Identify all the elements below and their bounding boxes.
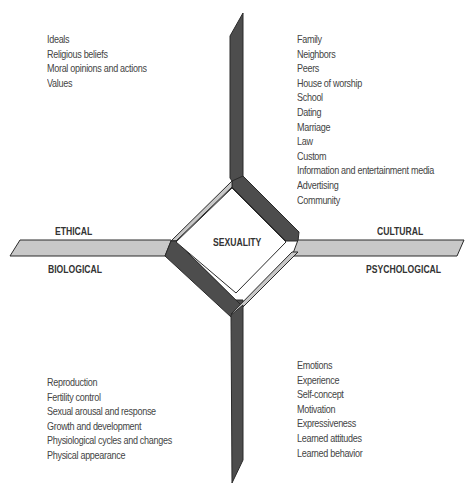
cultural-item: Family xyxy=(297,32,434,47)
dimension-label-cultural: CULTURAL xyxy=(377,225,423,237)
psychological-item: Expressiveness xyxy=(297,416,362,431)
bottom-vertical-bar xyxy=(231,305,243,483)
ethical-item: Ideals xyxy=(47,32,147,47)
psychological-item: Experience xyxy=(297,373,362,388)
cultural-item: Information and entertainment media xyxy=(297,163,434,178)
cultural-item: Advertising xyxy=(297,178,434,193)
dimension-label-ethical: ETHICAL xyxy=(55,225,92,237)
psychological-item: Emotions xyxy=(297,358,362,373)
ethical-item: Religious beliefs xyxy=(47,47,147,62)
cultural-item: Community xyxy=(297,193,434,208)
cultural-item: School xyxy=(297,90,434,105)
biological-item: Physiological cycles and changes xyxy=(47,433,172,448)
cultural-item: Dating xyxy=(297,105,434,120)
cultural-item: Neighbors xyxy=(297,47,434,62)
right-horizontal-bar xyxy=(292,240,464,256)
biological-items-list: Reproduction Fertility control Sexual ar… xyxy=(47,375,172,463)
cultural-item: House of worship xyxy=(297,76,434,91)
ethical-item: Values xyxy=(47,76,147,91)
psychological-item: Self-concept xyxy=(297,387,362,402)
psychological-item: Motivation xyxy=(297,402,362,417)
left-horizontal-bar xyxy=(10,240,171,256)
psychological-items-list: Emotions Experience Self-concept Motivat… xyxy=(297,358,362,460)
ethical-items-list: Ideals Religious beliefs Moral opinions … xyxy=(47,32,147,90)
biological-item: Fertility control xyxy=(47,390,172,405)
ethical-item: Moral opinions and actions xyxy=(47,61,147,76)
biological-item: Physical appearance xyxy=(47,448,172,463)
biological-item: Growth and development xyxy=(47,419,172,434)
biological-item: Sexual arousal and response xyxy=(47,404,172,419)
dimension-label-psychological: PSYCHOLOGICAL xyxy=(366,263,441,275)
top-vertical-bar xyxy=(230,13,243,181)
cultural-items-list: Family Neighbors Peers House of worship … xyxy=(297,32,434,207)
biological-item: Reproduction xyxy=(47,375,172,390)
psychological-item: Learned attitudes xyxy=(297,431,362,446)
psychological-item: Learned behavior xyxy=(297,446,362,461)
center-label-sexuality: SEXUALITY xyxy=(213,236,261,248)
cultural-item: Peers xyxy=(297,61,434,76)
cultural-item: Marriage xyxy=(297,120,434,135)
cultural-item: Custom xyxy=(297,149,434,164)
dimension-label-biological: BIOLOGICAL xyxy=(48,263,102,275)
cultural-item: Law xyxy=(297,134,434,149)
